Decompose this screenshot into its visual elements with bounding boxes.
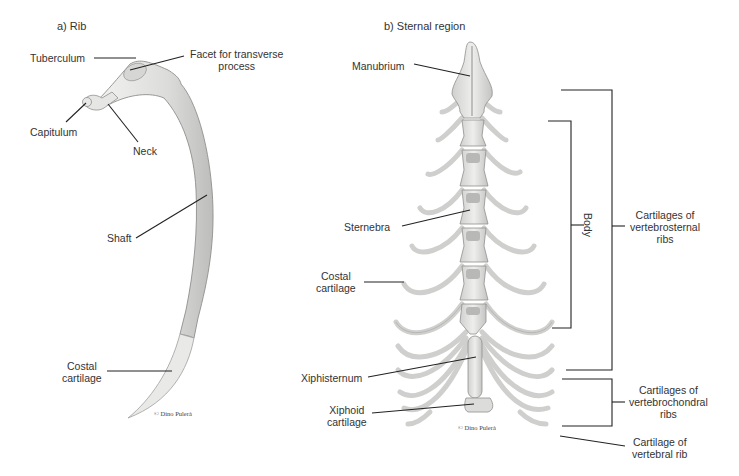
label-manubrium: Manubrium [352,60,405,72]
label-vertebrochondral-line1: Cartilages of [629,384,708,396]
label-capitulum: Capitulum [30,126,77,138]
label-xiphoid-cartilage: Xiphoid cartilage [327,404,367,428]
label-xiphoid-line2: cartilage [327,416,367,428]
sternum-illustration [396,42,552,424]
label-vertebrosternal-cartilages: Cartilages of vertebrosternal ribs [630,209,700,245]
label-vertebral-rib-cartilage: Cartilage of vertebral rib [632,436,687,460]
sternum-leader-lines [364,64,625,446]
label-vertebrochondral-line2: vertebrochondral [629,396,708,408]
label-body: Body [582,213,594,237]
label-xiphoid-line1: Xiphoid [327,404,367,416]
label-facet-transverse-process: Facet for transverse process [190,48,283,72]
label-vertebrosternal-line1: Cartilages of [630,209,700,221]
label-vertebral-line1: Cartilage of [632,436,687,448]
credit-panel-b: © Dino Pulerà [458,424,496,431]
label-shaft: Shaft [107,232,132,244]
rib-illustration [83,60,214,418]
label-sternebra: Sternebra [344,221,390,233]
label-vertebrochondral-cartilages: Cartilages of vertebrochondral ribs [629,384,708,420]
label-tuberculum: Tuberculum [30,52,85,64]
label-rib-costal-line2: cartilage [62,372,102,384]
label-facet-line1: Facet for transverse [190,48,283,60]
label-vertebrosternal-line2: vertebrosternal [630,221,700,233]
label-vertebrosternal-line3: ribs [630,233,700,245]
xiphisternum-shape [468,336,482,398]
label-sternal-costal-line2: cartilage [316,282,356,294]
credit-panel-a: © Dino Pulerà [154,410,192,417]
label-rib-costal-line1: Costal [62,360,102,372]
label-sternal-costal-cartilage: Costal cartilage [316,270,356,294]
label-rib-costal-cartilage: Costal cartilage [62,360,102,384]
panel-a-title: a) Rib [57,20,86,32]
label-neck: Neck [133,145,157,157]
label-sternal-costal-line1: Costal [316,270,356,282]
label-xiphisternum: Xiphisternum [301,372,362,384]
label-vertebral-line2: vertebral rib [632,448,687,460]
panel-b-title: b) Sternal region [384,20,465,32]
label-vertebrochondral-line3: ribs [629,408,708,420]
label-facet-line2: process [190,60,283,72]
